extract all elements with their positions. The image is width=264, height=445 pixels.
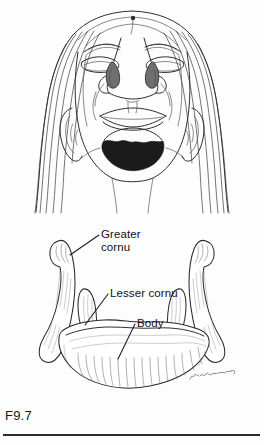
head-crown bbox=[72, 11, 192, 46]
bottom-divider-rule bbox=[3, 434, 260, 436]
ear-left bbox=[60, 108, 82, 161]
mouth bbox=[100, 102, 166, 130]
hair-right bbox=[164, 31, 229, 213]
figure-number: F9.7 bbox=[5, 408, 32, 423]
face-illustration-panel bbox=[0, 0, 264, 215]
hair-parting-mark bbox=[131, 16, 135, 20]
ear-right bbox=[182, 108, 204, 161]
nostrils bbox=[106, 62, 158, 88]
figure-container: Greater cornu Lesser cornu Body F9.7 bbox=[0, 0, 264, 445]
hyoid-bone-drawing bbox=[0, 213, 264, 403]
neck bbox=[112, 178, 153, 213]
hyoid-bone-panel bbox=[0, 213, 264, 403]
hyoid-body bbox=[59, 320, 209, 388]
eyebrows bbox=[84, 44, 181, 55]
face-drawing bbox=[0, 0, 264, 215]
submental-shadow bbox=[82, 128, 184, 171]
artist-signature bbox=[190, 370, 235, 379]
